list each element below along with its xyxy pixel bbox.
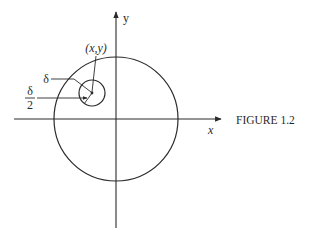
half-delta-denominator: 2 [27, 98, 33, 112]
figure-caption: FIGURE 1.2 [236, 114, 295, 126]
delta-leader-line [51, 79, 91, 92]
figure-diagram: y x (x,y) δ δ 2 FIGURE 1.2 [0, 0, 311, 241]
x-axis-label: x [207, 123, 214, 137]
y-axis-label: y [123, 11, 129, 25]
half-delta-fraction: δ 2 [25, 84, 35, 112]
half-delta-numerator: δ [27, 84, 33, 98]
point-label: (x,y) [85, 41, 107, 55]
small-circle-radius [84, 93, 92, 104]
delta-label: δ [43, 72, 49, 86]
